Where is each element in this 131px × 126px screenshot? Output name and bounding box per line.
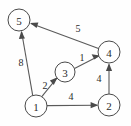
arrowhead-into-5-from-4 [30, 23, 38, 28]
edge-2-to-4 [106, 63, 112, 94]
node-group: 5 4 3 1 2 [8, 9, 120, 117]
graph-canvas: 5 8 1 2 4 4 5 4 3 1 [0, 0, 131, 126]
node-label-4: 4 [106, 47, 112, 59]
node-5: 5 [8, 9, 30, 31]
node-2: 2 [98, 94, 120, 116]
arrowhead-into-2-from-1 [91, 102, 99, 108]
edge-1-to-2 [47, 102, 98, 108]
node-1: 1 [25, 95, 47, 117]
edge-3-to-4 [75, 54, 100, 68]
node-3: 3 [55, 62, 75, 82]
edge-weight-4-5: 5 [76, 23, 81, 34]
edge-weight-1-5: 8 [19, 57, 24, 68]
node-label-5: 5 [16, 15, 22, 27]
node-4: 4 [98, 41, 120, 63]
node-label-1: 1 [33, 101, 39, 113]
arrowhead-into-5-from-1 [19, 31, 25, 39]
node-label-2: 2 [106, 100, 112, 112]
graph-figure: 5 8 1 2 4 4 5 4 3 1 [0, 0, 131, 126]
edge-line-4-5 [31, 24, 99, 49]
arrowhead-into-3-from-1 [50, 77, 58, 85]
edge-weight-3-4: 1 [80, 52, 85, 63]
edge-weight-1-3: 2 [43, 80, 48, 91]
node-label-3: 3 [62, 67, 68, 79]
edge-4-to-5 [30, 23, 99, 49]
edge-weight-2-4: 4 [97, 73, 102, 84]
edge-weight-1-2: 4 [69, 91, 74, 102]
arrowhead-into-4-from-2 [106, 63, 112, 71]
